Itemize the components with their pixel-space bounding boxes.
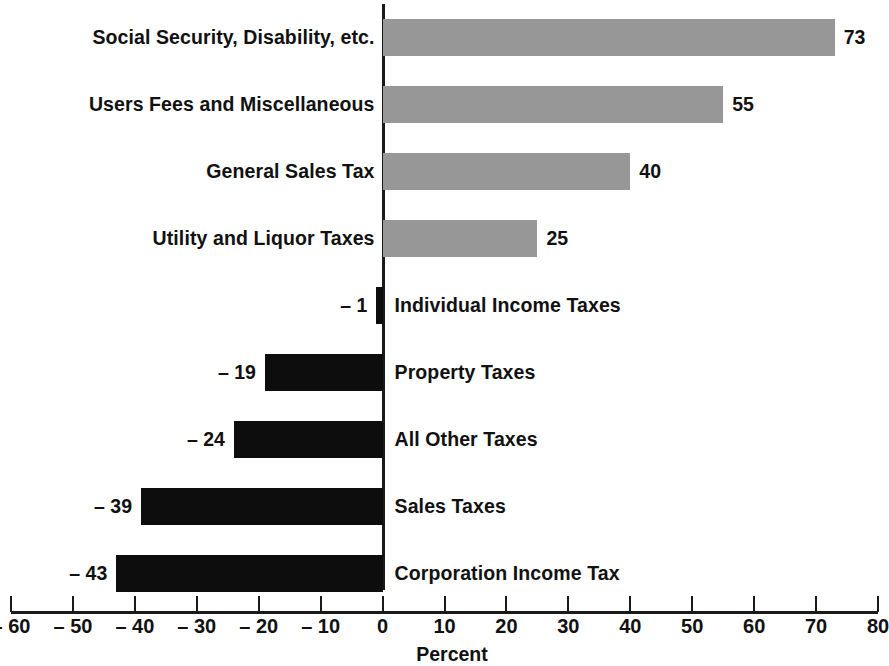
category-label: Utility and Liquor Taxes — [0, 220, 375, 257]
axis-tick-label: 80 — [867, 615, 889, 638]
bar-row: – 39Sales Taxes — [0, 473, 888, 540]
axis-tick — [691, 596, 693, 612]
bar-row: – 24All Other Taxes — [0, 406, 888, 473]
bar-row: 55Users Fees and Miscellaneous — [0, 71, 888, 138]
bar-value-label: 25 — [546, 220, 568, 257]
bar-value-label: – 24 — [187, 421, 225, 458]
category-label: Social Security, Disability, etc. — [0, 19, 375, 56]
category-label: Sales Taxes — [395, 488, 888, 525]
x-axis: – 60– 50– 40– 30– 20– 100102030405060708… — [0, 590, 888, 666]
axis-tick — [382, 596, 384, 612]
bar-value-label: – 39 — [94, 488, 132, 525]
axis-tick-label: 0 — [377, 615, 388, 638]
axis-tick-label: – 30 — [177, 615, 216, 638]
bar-value-label: – 43 — [69, 555, 107, 592]
axis-tick — [567, 596, 569, 612]
axis-tick — [753, 596, 755, 612]
bar-value-label: 40 — [639, 153, 661, 190]
bar-negative — [234, 421, 383, 458]
category-label: General Sales Tax — [0, 153, 375, 190]
bar-negative — [376, 287, 382, 324]
bar-row: – 1Individual Income Taxes — [0, 272, 888, 339]
bar-positive — [383, 19, 835, 56]
bar-row: 73Social Security, Disability, etc. — [0, 4, 888, 71]
axis-tick — [10, 596, 12, 612]
axis-tick-label: 10 — [433, 615, 455, 638]
x-axis-title-label: Percent — [416, 643, 488, 666]
bar-value-label: – 1 — [340, 287, 367, 324]
bar-row: – 19Property Taxes — [0, 339, 888, 406]
plot-area: 73Social Security, Disability, etc.55Use… — [0, 0, 888, 590]
axis-tick — [72, 596, 74, 612]
bar-value-label: 55 — [732, 86, 754, 123]
category-label: Corporation Income Tax — [395, 555, 888, 592]
axis-tick — [444, 596, 446, 612]
category-label: Individual Income Taxes — [395, 287, 888, 324]
bar-row: 25Utility and Liquor Taxes — [0, 205, 888, 272]
axis-tick — [196, 596, 198, 612]
bar-value-label: 73 — [844, 19, 866, 56]
axis-tick-label: 50 — [681, 615, 703, 638]
axis-tick-label: – 60 — [0, 615, 30, 638]
bar-row: 40General Sales Tax — [0, 138, 888, 205]
bar-value-label: – 19 — [218, 354, 256, 391]
bar-positive — [383, 153, 631, 190]
x-axis-title: Percent — [0, 643, 888, 666]
axis-tick — [134, 596, 136, 612]
category-label: Users Fees and Miscellaneous — [0, 86, 375, 123]
axis-tick — [815, 596, 817, 612]
axis-tick-label: 30 — [557, 615, 579, 638]
bar-negative — [265, 354, 383, 391]
axis-tick-label: – 10 — [301, 615, 340, 638]
axis-tick-label: 70 — [805, 615, 827, 638]
bar-negative — [141, 488, 383, 525]
axis-tick-label: 20 — [495, 615, 517, 638]
axis-tick-label: – 20 — [239, 615, 278, 638]
axis-tick — [320, 596, 322, 612]
category-label: All Other Taxes — [395, 421, 888, 458]
axis-tick-label: 40 — [619, 615, 641, 638]
bar-positive — [383, 86, 724, 123]
axis-tick — [629, 596, 631, 612]
bar-positive — [383, 220, 538, 257]
axis-tick-label: – 40 — [115, 615, 154, 638]
axis-tick-label: – 50 — [53, 615, 92, 638]
category-label: Property Taxes — [395, 354, 888, 391]
axis-tick — [877, 596, 879, 612]
bar-negative — [116, 555, 382, 592]
axis-tick — [505, 596, 507, 612]
axis-tick — [258, 596, 260, 612]
axis-tick-label: 60 — [743, 615, 765, 638]
